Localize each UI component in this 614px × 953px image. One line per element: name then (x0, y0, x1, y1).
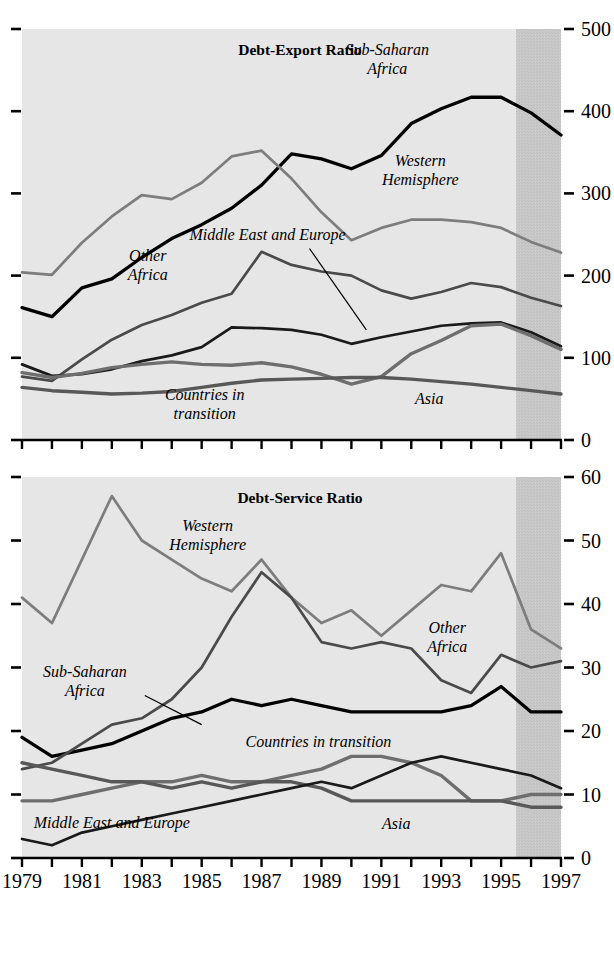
y-tick-label: 100 (581, 347, 611, 369)
y-tick-label: 50 (581, 530, 601, 552)
series-label-line: Africa (426, 638, 467, 656)
series-label-line: Western (395, 152, 446, 169)
series-label-middle-east-and-europe: Middle East and Europe (188, 226, 345, 244)
chart-top-canvas: Debt-Export Ratio0100200300400500Sub-Sah… (0, 0, 614, 462)
chart-debt-export-ratio: Debt-Export Ratio0100200300400500Sub-Sah… (0, 0, 614, 462)
figure-page: Debt-Export Ratio0100200300400500Sub-Sah… (0, 0, 614, 953)
plot-title: Debt-Service Ratio (237, 489, 362, 506)
chart-bottom-canvas: Debt-Service Ratio0102030405060WesternHe… (0, 460, 614, 953)
forecast-shaded-region (516, 29, 561, 440)
series-label-middle-east-and-europe: Middle East and Europe (33, 814, 190, 832)
y-tick-label: 200 (581, 265, 611, 287)
x-axis-year-label: 1985 (182, 870, 222, 892)
series-label-asia: Asia (381, 815, 410, 832)
x-axis-year-label: 1991 (361, 870, 401, 892)
series-label-line: Other (129, 247, 167, 264)
forecast-shaded-region (516, 477, 561, 858)
series-label-line: Hemisphere (381, 171, 459, 189)
series-label-line: Africa (127, 266, 168, 284)
x-axis-year-label: 1983 (122, 870, 162, 892)
y-tick-label: 10 (581, 784, 601, 806)
chart-debt-service-ratio: Debt-Service Ratio0102030405060WesternHe… (0, 460, 614, 953)
series-label-line: Countries in (165, 386, 245, 403)
chart-top-svg: Debt-Export Ratio0100200300400500Sub-Sah… (0, 0, 614, 462)
y-tick-label: 500 (581, 18, 611, 40)
series-label-line: Middle East and Europe (188, 226, 345, 244)
chart-bottom-svg: Debt-Service Ratio0102030405060WesternHe… (0, 460, 614, 953)
y-tick-label: 30 (581, 657, 601, 679)
y-tick-label: 40 (581, 593, 601, 615)
series-label-line: Western (182, 517, 233, 534)
x-axis-year-label: 1981 (62, 870, 102, 892)
plot-title: Debt-Export Ratio (238, 41, 362, 58)
x-axis-year-label: 1995 (481, 870, 521, 892)
y-tick-label: 400 (581, 100, 611, 122)
series-label-line: Countries in transition (246, 733, 392, 750)
x-axis-year-label: 1979 (2, 870, 42, 892)
y-tick-label: 60 (581, 466, 601, 488)
series-label-line: Asia (414, 390, 443, 407)
series-label-line: Africa (64, 682, 105, 700)
y-tick-label: 300 (581, 182, 611, 204)
x-axis-year-label: 1987 (242, 870, 282, 892)
series-label-line: Hemisphere (168, 536, 246, 554)
series-label-line: Asia (381, 815, 410, 832)
series-label-line: Africa (366, 60, 407, 78)
x-axis-year-label: 1997 (541, 870, 581, 892)
series-label-countries-in-transition: Countries in transition (246, 733, 392, 750)
x-axis-year-label: 1989 (301, 870, 341, 892)
series-label-line: Other (429, 619, 467, 636)
series-label-asia: Asia (414, 390, 443, 407)
y-tick-label: 20 (581, 720, 601, 742)
series-label-line: Middle East and Europe (33, 814, 190, 832)
y-tick-label: 0 (581, 429, 591, 451)
series-label-line: Sub-Saharan (43, 663, 127, 680)
series-label-other-africa: OtherAfrica (127, 247, 168, 284)
series-label-line: Sub-Saharan (346, 41, 430, 58)
x-axis-year-label: 1993 (421, 870, 461, 892)
series-label-line: transition (174, 405, 236, 422)
series-label-other-africa: OtherAfrica (426, 619, 467, 656)
y-tick-label: 0 (581, 847, 591, 869)
